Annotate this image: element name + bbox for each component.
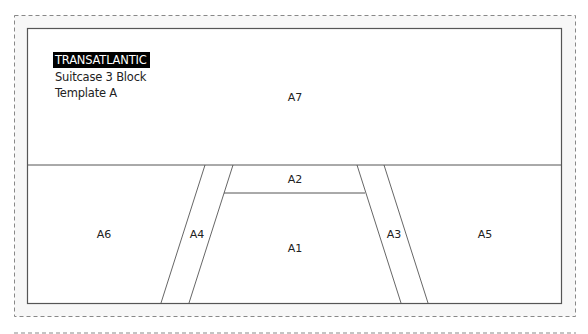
- template-subtitle-line2: Template A: [55, 86, 117, 100]
- piece-label-a2: A2: [288, 173, 303, 186]
- piece-label-a4: A4: [190, 228, 205, 241]
- template-diagram: A7 A6 A4 A2 A1 A3 A5: [0, 0, 588, 334]
- brand-title: TRANSATLANTIC: [53, 52, 150, 68]
- piece-label-a1: A1: [288, 242, 303, 255]
- piece-label-a5: A5: [478, 228, 493, 241]
- piece-label-a6: A6: [97, 228, 112, 241]
- template-subtitle-line1: Suitcase 3 Block: [55, 70, 146, 84]
- piece-label-a7: A7: [288, 91, 303, 104]
- piece-label-a3: A3: [387, 228, 402, 241]
